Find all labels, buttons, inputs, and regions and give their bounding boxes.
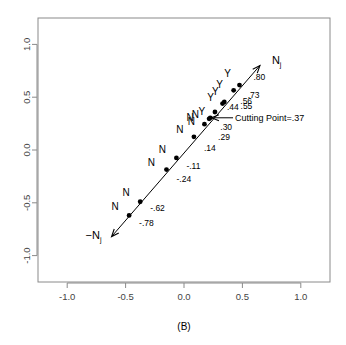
y-tick-label: 0.0 — [21, 143, 32, 156]
y-tick-label: -1.0 — [21, 247, 32, 263]
data-point — [164, 167, 169, 172]
point-value-label: .29 — [218, 132, 230, 142]
point-value-label: .14 — [204, 143, 216, 153]
class-marker-N: N — [148, 157, 155, 168]
x-tick-label: 0.5 — [236, 291, 249, 302]
data-point — [231, 88, 236, 93]
data-point — [237, 83, 242, 88]
x-tick-label: -1.0 — [59, 291, 75, 302]
discriminant-axis-line — [112, 66, 260, 237]
class-marker-N: N — [111, 201, 118, 212]
point-value-label: .80 — [253, 72, 265, 82]
point-value-label: -.24 — [176, 174, 191, 184]
point-value-label: .44 — [227, 102, 239, 112]
x-tick-label: 0.0 — [177, 291, 190, 302]
data-point — [174, 156, 179, 161]
data-point — [192, 134, 197, 139]
class-marker-Y: Y — [224, 68, 231, 79]
plot-frame — [38, 18, 330, 282]
class-marker-Y: Y — [207, 92, 214, 103]
data-point — [202, 122, 207, 127]
axis-label-negative: −Nj — [86, 229, 102, 244]
data-point — [127, 213, 132, 218]
point-value-label: -.11 — [186, 161, 200, 171]
class-marker-N: N — [159, 144, 166, 155]
chart-caption: (B) — [177, 321, 190, 332]
y-tick-label: -0.5 — [21, 195, 32, 211]
point-value-label: -.62 — [150, 203, 165, 213]
data-point — [220, 101, 225, 106]
class-marker-N: N — [188, 116, 195, 127]
axis-label-positive: Nj — [272, 54, 282, 69]
class-marker-N: N — [176, 124, 183, 135]
point-value-label: .55 — [241, 101, 253, 111]
data-point — [207, 116, 212, 121]
point-value-label: -.78 — [139, 218, 154, 228]
chart-figure: -1.0-0.50.00.51.0-1.0-0.50.00.51.0Nj−NjY… — [0, 0, 346, 345]
class-marker-Y: Y — [199, 106, 206, 117]
scatter-plot: -1.0-0.50.00.51.0-1.0-0.50.00.51.0Nj−NjY… — [0, 0, 346, 345]
point-value-label: .30 — [220, 122, 232, 132]
data-point — [138, 199, 143, 204]
y-tick-label: 0.5 — [21, 91, 32, 104]
x-tick-label: 1.0 — [294, 291, 307, 302]
x-tick-label: -0.5 — [117, 291, 133, 302]
y-tick-label: 1.0 — [21, 38, 32, 51]
cutting-point-annotation: Cutting Point=.37 — [235, 113, 304, 123]
data-point — [213, 110, 218, 115]
class-marker-N: N — [123, 187, 130, 198]
